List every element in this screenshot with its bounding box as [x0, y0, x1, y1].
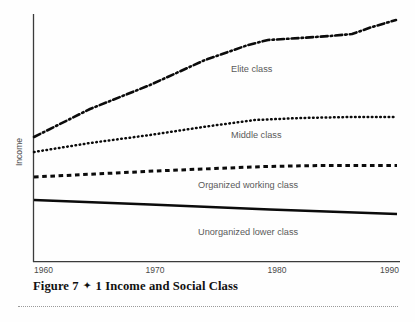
diamond-icon: ✦ — [79, 280, 96, 291]
bottom-divider — [18, 306, 398, 307]
x-tick-label-1970: 1970 — [146, 265, 165, 275]
y-axis-title: Income — [14, 138, 24, 166]
caption-figure-number: Figure 7 — [33, 279, 79, 294]
series-label-middle-class: Middle class — [231, 130, 282, 140]
x-tick-label-1980: 1980 — [268, 265, 287, 275]
x-tick-label-1960: 1960 — [34, 265, 53, 275]
series-label-elite-class: Elite class — [231, 64, 273, 74]
caption-figure-title: 1 Income and Social Class — [96, 279, 238, 294]
series-line-organized-working-class — [34, 166, 397, 178]
series-line-unorganized-lower-class — [34, 200, 397, 214]
series-line-middle-class — [34, 117, 397, 152]
figure-caption: Figure 7 ✦ 1 Income and Social Class — [33, 276, 403, 296]
income-social-class-chart: Income 1960 1970 1980 1990 Elite class M… — [0, 0, 415, 285]
series-line-elite-class — [34, 20, 396, 137]
x-tick-label-1990: 1990 — [380, 265, 399, 275]
series-label-organized-working-class: Organized working class — [198, 180, 298, 190]
figure-container: Income 1960 1970 1980 1990 Elite class M… — [0, 0, 415, 322]
series-label-unorganized-lower-class: Unorganized lower class — [198, 227, 298, 237]
